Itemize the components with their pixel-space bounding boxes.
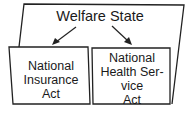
label-line: vice [94, 79, 170, 93]
label-line: Act [14, 87, 88, 101]
label-line: National [94, 51, 170, 65]
arrow-right-icon [112, 26, 128, 41]
label-line: National [14, 59, 88, 73]
national-health-service-act-label: National Health Ser- vice Act [94, 51, 170, 107]
arrowhead-left-icon [52, 38, 60, 45]
label-line: Act [94, 93, 170, 107]
national-insurance-act-label: National Insurance Act [14, 59, 88, 101]
label-line: Insurance [14, 73, 88, 87]
arrow-left-icon [56, 27, 76, 42]
label-line: Health Ser- [94, 65, 170, 79]
welfare-state-title: Welfare State [50, 9, 150, 23]
